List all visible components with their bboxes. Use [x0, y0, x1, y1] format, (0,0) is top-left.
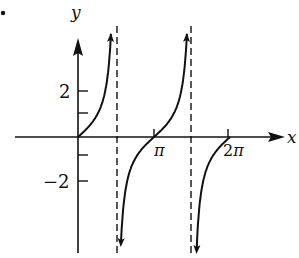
x-tick-label-2pi-coef: 2	[223, 141, 233, 160]
tangent-graph: x y 2 −2 π 2π	[0, 0, 299, 258]
x-tick-label-pi: π	[153, 141, 165, 160]
y-axis-label: y	[70, 2, 81, 22]
x-tick-label-2pi: 2π	[223, 141, 244, 160]
x-tick-label-2pi-pi: π	[232, 141, 244, 160]
y-tick-label-neg2: −2	[43, 171, 70, 192]
y-tick-label-2: 2	[59, 81, 70, 102]
curve-branch-1	[78, 34, 111, 137]
problem-marker-dot	[1, 11, 5, 15]
x-axis-label: x	[287, 127, 297, 147]
